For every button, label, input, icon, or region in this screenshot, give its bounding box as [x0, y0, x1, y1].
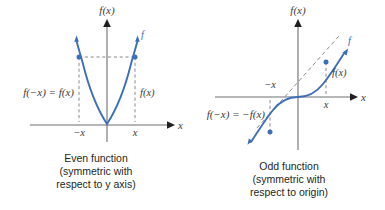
odd-function-caption: Odd function (symmetric with respect to … — [193, 160, 385, 200]
curve-label: f — [141, 29, 146, 40]
x-axis-arrow — [167, 121, 175, 129]
marked-point-right — [133, 55, 138, 60]
caption-line-2: (symmetric with — [0, 165, 192, 178]
even-identity-equation: f(−x) = f(x) — [23, 86, 74, 99]
even-function-plot: x f(x) f −x x f(−x) = f(x) f(x) — [0, 0, 192, 150]
marked-point-left — [268, 130, 273, 135]
caption-line-2: (symmetric with — [193, 173, 385, 186]
caption-line-3: respect to y axis) — [0, 178, 192, 191]
even-function-caption: Even function (symmetric with respect to… — [0, 152, 192, 192]
caption-line-1: Odd function — [193, 160, 385, 173]
value-label-fx: f(x) — [140, 87, 155, 99]
y-axis-label: f(x) — [290, 4, 306, 17]
tick-label-x: x — [323, 99, 329, 110]
value-label-fx: f(x) — [332, 67, 347, 79]
tick-label-x: x — [132, 127, 138, 138]
tick-label-negative-x: −x — [264, 79, 276, 90]
y-axis-arrow — [294, 19, 302, 27]
y-axis-arrow — [103, 19, 111, 27]
curve-end-arrow-right — [135, 36, 140, 42]
curve-label: f — [348, 35, 353, 46]
y-axis-label: f(x) — [99, 4, 115, 17]
tick-label-negative-x: −x — [73, 127, 85, 138]
x-axis-arrow — [350, 93, 358, 101]
x-axis-label: x — [177, 119, 183, 131]
marked-point-right — [324, 60, 329, 65]
odd-identity-equation: f(−x) = −f(x) — [207, 108, 266, 121]
caption-line-3: respect to origin) — [193, 186, 385, 199]
marked-point-left — [77, 55, 82, 60]
caption-line-1: Even function — [0, 152, 192, 165]
x-axis-label: x — [360, 91, 366, 103]
even-function-figure: x f(x) f −x x f(−x) = f(x) f(x) Even fun… — [0, 0, 192, 210]
odd-function-figure: x f(x) f −x x f(−x) = −f(x) f(x) Odd fun… — [193, 0, 385, 210]
odd-function-plot: x f(x) f −x x f(−x) = −f(x) f(x) — [193, 0, 385, 150]
curve-end-arrow-left — [74, 36, 79, 42]
